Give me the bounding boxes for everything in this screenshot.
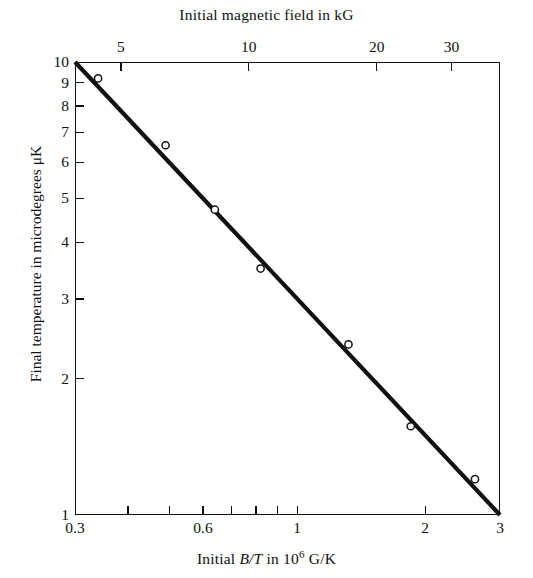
data-point-2 [211, 206, 218, 213]
data-point-0 [95, 75, 102, 82]
data-point-5 [407, 423, 414, 430]
figure-container: Initial magnetic field in kG Initial B/T… [0, 0, 533, 578]
data-point-3 [257, 265, 264, 272]
fit-line [75, 62, 500, 515]
data-layer [0, 0, 533, 578]
data-point-6 [471, 476, 478, 483]
fit-line-group [75, 62, 500, 515]
data-point-1 [162, 142, 169, 149]
data-point-4 [345, 341, 352, 348]
data-points-group [95, 75, 479, 483]
